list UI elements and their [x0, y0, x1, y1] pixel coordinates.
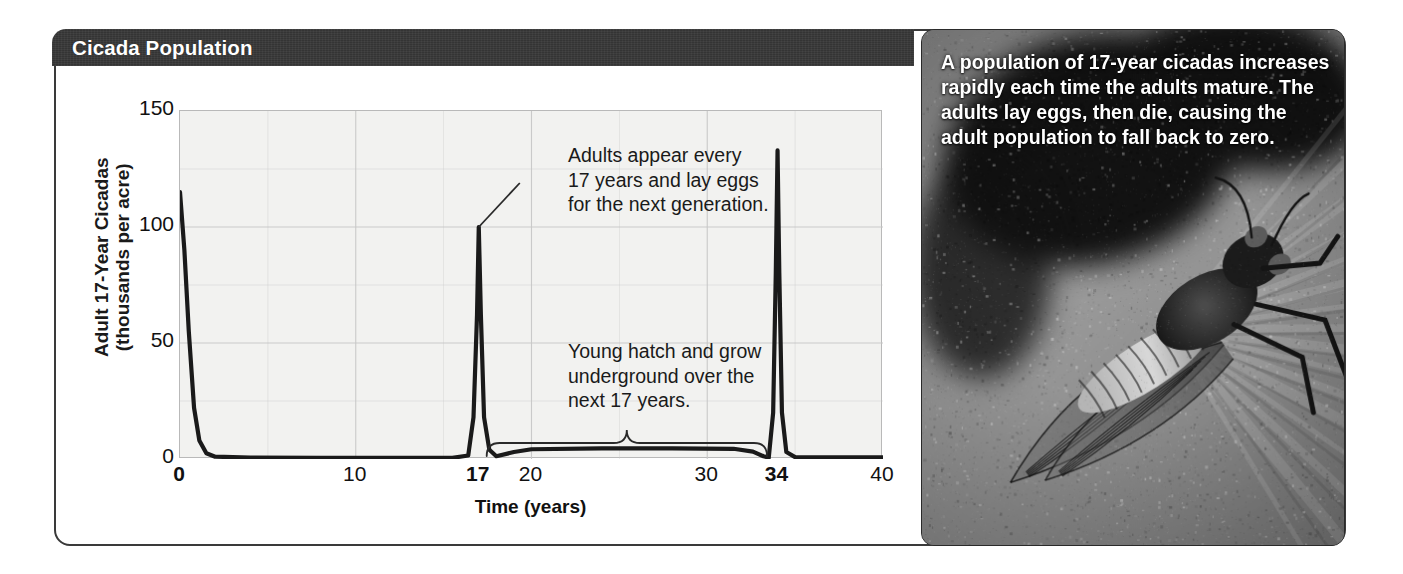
annotation-adults-appear: Adults appear every 17 years and lay egg…	[568, 143, 769, 217]
x-tick-label: 34	[765, 462, 788, 486]
figure-title-bar: Cicada Population	[52, 29, 914, 66]
x-tick-label: 30	[695, 462, 718, 486]
x-tick-label: 0	[173, 462, 185, 486]
x-axis-ticks: 0101720303440	[179, 462, 882, 492]
x-tick-label: 20	[519, 462, 542, 486]
annotation-leader-line	[479, 183, 520, 227]
chart-region: Adult 17-Year Cicadas (thousands per acr…	[54, 66, 914, 544]
figure-page: Cicada Population Adult 17-Year Cicadas …	[0, 0, 1403, 574]
x-tick-label: 10	[343, 462, 366, 486]
population-curve-svg	[180, 111, 883, 459]
figure-title: Cicada Population	[52, 36, 253, 60]
underground-period-bracket	[487, 430, 767, 456]
x-tick-label: 17	[466, 462, 489, 486]
x-tick-label: 40	[870, 462, 893, 486]
annotation-young-hatch: Young hatch and grow underground over th…	[568, 339, 761, 413]
y-tick-label: 150	[120, 96, 174, 120]
photo-caption: A population of 17-year cicadas increase…	[941, 50, 1331, 150]
y-tick-label: 0	[120, 444, 174, 468]
y-tick-label: 50	[120, 328, 174, 352]
cicada-photo-panel: A population of 17-year cicadas increase…	[921, 29, 1345, 546]
y-axis-ticks: 050100150	[114, 110, 174, 458]
y-tick-label: 100	[120, 212, 174, 236]
x-axis-title: Time (years)	[179, 496, 882, 518]
plot-area: Adults appear every 17 years and lay egg…	[179, 110, 882, 458]
